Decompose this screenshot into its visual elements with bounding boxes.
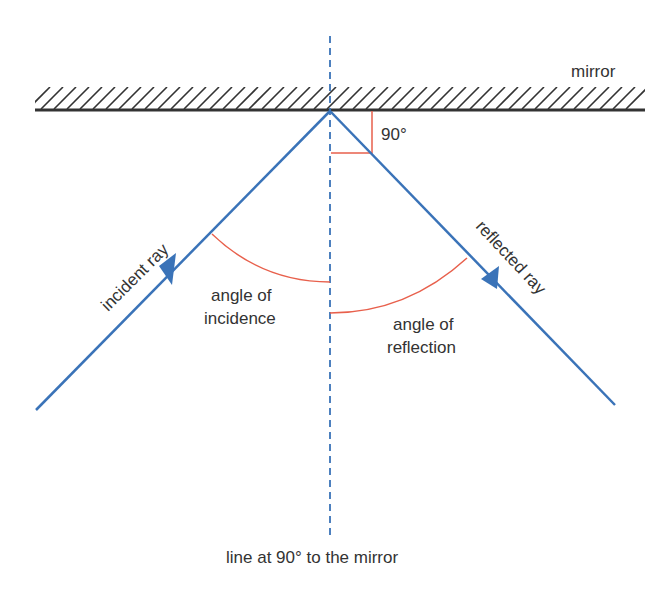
mirror-label: mirror bbox=[571, 62, 616, 81]
angle-of-incidence-label-line2: incidence bbox=[204, 309, 276, 328]
normal-label: line at 90° to the mirror bbox=[226, 548, 398, 567]
angle-of-reflection-arc bbox=[330, 258, 467, 313]
angle-of-incidence-arc bbox=[212, 234, 330, 282]
angle-of-reflection-label-line1: angle of bbox=[393, 315, 454, 334]
reflected-ray bbox=[330, 111, 615, 405]
incident-ray-label: incident ray bbox=[97, 240, 172, 315]
mirror-hatching bbox=[28, 87, 648, 109]
incident-ray bbox=[36, 111, 330, 410]
angle-of-reflection-label-line2: reflection bbox=[387, 338, 456, 357]
right-angle-label: 90° bbox=[381, 125, 407, 144]
reflection-diagram: mirror 90° incident ray reflected ray an… bbox=[0, 0, 655, 590]
reflected-ray-label: reflected ray bbox=[472, 217, 550, 299]
angle-of-incidence-label-line1: angle of bbox=[211, 286, 272, 305]
